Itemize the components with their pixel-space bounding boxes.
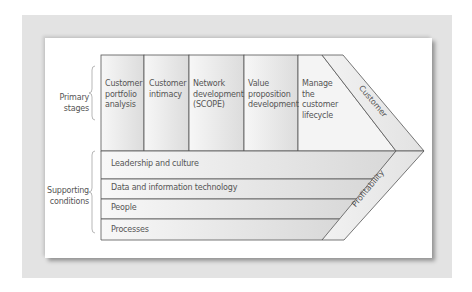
group-label-line: conditions bbox=[40, 197, 89, 208]
stage-label-line: development bbox=[193, 90, 244, 101]
stage-value-proposition-development: Value proposition development bbox=[248, 79, 299, 111]
supporting-brace bbox=[89, 151, 95, 233]
stage-customer-intimacy: Customer intimacy bbox=[149, 79, 186, 100]
stage-label-line: Value bbox=[248, 79, 299, 90]
condition-data-it: Data and information technology bbox=[111, 183, 237, 194]
stage-label-line: development bbox=[248, 100, 299, 111]
group-label-supporting: Supporting conditions bbox=[40, 186, 89, 207]
group-label-line: Primary bbox=[50, 93, 89, 104]
stage-label-line: Network bbox=[193, 79, 244, 90]
group-label-line: stages bbox=[50, 104, 89, 115]
group-label-primary: Primary stages bbox=[50, 93, 89, 114]
stage-label-line: Customer bbox=[149, 79, 186, 90]
stage-manage-customer-lifecycle: Manage the customer lifecycle bbox=[302, 79, 338, 121]
stage-label-line: the bbox=[302, 90, 338, 101]
stage-label-line: analysis bbox=[105, 100, 142, 111]
stage-label-line: proposition bbox=[248, 90, 299, 101]
stage-label-line: customer bbox=[302, 100, 338, 111]
stage-customer-portfolio-analysis: Customer portfolio analysis bbox=[105, 79, 142, 111]
stage-label-line: portfolio bbox=[105, 90, 142, 101]
condition-leadership-culture: Leadership and culture bbox=[111, 159, 199, 170]
stage-label-line: Customer bbox=[105, 79, 142, 90]
condition-people: People bbox=[111, 203, 136, 214]
stage-network-development: Network development (SCOPE) bbox=[193, 79, 244, 111]
condition-processes: Processes bbox=[111, 225, 149, 236]
stage-label-line: (SCOPE) bbox=[193, 100, 244, 111]
stage-label-line: lifecycle bbox=[302, 111, 338, 122]
stage-label-line: intimacy bbox=[149, 90, 186, 101]
group-label-line: Supporting bbox=[40, 186, 89, 197]
stage-label-line: Manage bbox=[302, 79, 338, 90]
primary-brace bbox=[89, 66, 95, 120]
diagram-graphic: Customer Profitability bbox=[0, 0, 472, 292]
